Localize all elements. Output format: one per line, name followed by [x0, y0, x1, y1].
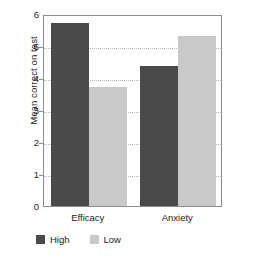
y-axis-tick-label: 5 — [11, 42, 39, 52]
legend-swatch-icon — [36, 235, 45, 244]
legend: HighLow — [36, 235, 121, 245]
y-axis-tick-label: 6 — [11, 10, 39, 20]
bar-chart: Mean correct on test 0123456 EfficacyAnx… — [0, 0, 256, 264]
bar-efficacy-high — [51, 23, 89, 206]
y-axis-tick-label: 4 — [11, 74, 39, 84]
x-axis-tick-label: Efficacy — [71, 212, 104, 223]
x-axis-tick-label: Anxiety — [162, 212, 193, 223]
legend-item-high[interactable]: High — [36, 235, 70, 245]
y-axis-tick-label: 1 — [11, 170, 39, 180]
bars — [44, 16, 221, 206]
legend-label: High — [50, 235, 70, 245]
legend-item-low[interactable]: Low — [90, 235, 121, 245]
bar-efficacy-low — [89, 87, 127, 206]
y-axis-tick-label: 2 — [11, 138, 39, 148]
plot-area — [43, 15, 222, 207]
legend-swatch-icon — [90, 235, 99, 244]
y-axis-tick-label: 0 — [11, 202, 39, 212]
legend-label: Low — [104, 235, 121, 245]
y-axis-tick-label: 3 — [11, 106, 39, 116]
bar-anxiety-low — [178, 36, 216, 206]
bar-anxiety-high — [140, 66, 178, 206]
